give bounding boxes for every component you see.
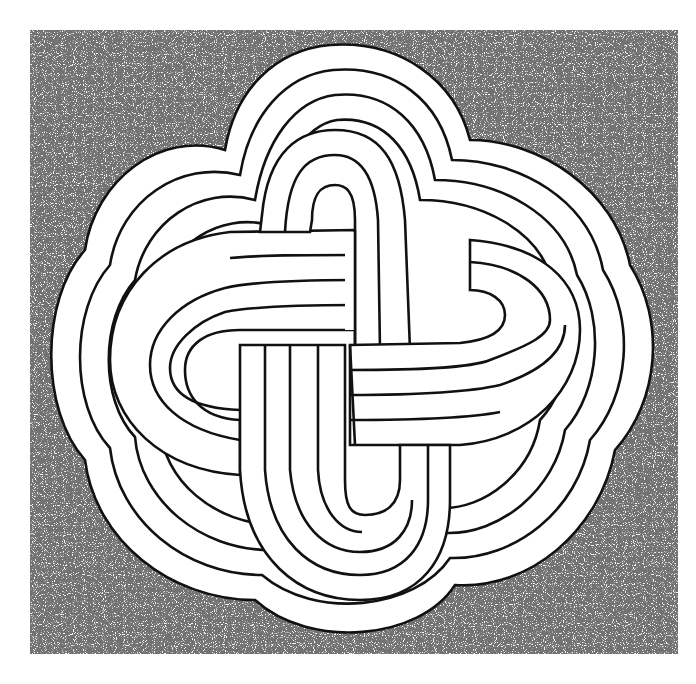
knot-illustration bbox=[0, 0, 696, 684]
